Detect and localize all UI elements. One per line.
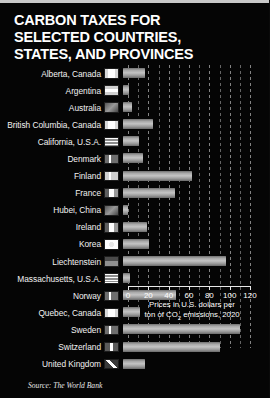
bar-row: Massachusetts, U.S.A.: [0, 270, 269, 287]
flag-korea-icon: [104, 239, 119, 250]
bar-track: [123, 185, 270, 202]
axis-tick: [209, 286, 210, 290]
category-label: Quebec, Canada: [0, 308, 104, 318]
axis-caption-line-2: ton of CO2 emissions, 2020: [128, 310, 256, 322]
bar: [123, 136, 139, 146]
bar-track: [123, 236, 270, 253]
bar-row: United Kingdom: [0, 356, 269, 373]
flag-quebec-canada-icon: [104, 308, 119, 319]
axis-caption-line-1: Prices in U.S. dollars per: [128, 300, 256, 310]
category-label: California, U.S.A.: [0, 137, 104, 147]
axis-caption-post: emissions, 2020: [181, 310, 240, 319]
axis-tick-label: 80: [205, 291, 214, 300]
category-label: Sweden: [0, 325, 104, 335]
bar-row: Australia: [0, 99, 269, 116]
bar: [123, 171, 192, 181]
flag-sweden-icon: [104, 325, 119, 336]
bar: [123, 222, 147, 232]
flag-alberta-canada-icon: [104, 68, 119, 79]
carbon-taxes-chart-figure: CARBON TAXES FOR SELECTED COUNTRIES, STA…: [0, 0, 269, 398]
bar: [123, 153, 143, 163]
bar-row: Hubei, China: [0, 202, 269, 219]
category-label: Ireland: [0, 222, 104, 232]
bar-rows: Alberta, CanadaArgentinaAustraliaBritish…: [0, 65, 269, 373]
flag-france-icon: [104, 188, 119, 199]
source-credit: Source: The World Bank: [28, 381, 102, 390]
title-line-1: CARBON TAXES FOR: [14, 12, 255, 29]
axis-tick: [250, 286, 251, 290]
category-label: United Kingdom: [0, 359, 104, 369]
bar-row: Switzerland: [0, 339, 269, 356]
bar-track: [123, 133, 270, 150]
axis-tick: [169, 286, 170, 290]
bar-track: [123, 321, 270, 338]
bar-track: [123, 99, 270, 116]
category-label: Korea: [0, 239, 104, 249]
category-label: France: [0, 188, 104, 198]
bar-row: British Columbia, Canada: [0, 116, 269, 133]
bar-track: [123, 82, 270, 99]
bar: [123, 68, 145, 78]
bar-row: Sweden: [0, 321, 269, 338]
flag-ireland-icon: [104, 222, 119, 233]
bar: [123, 324, 241, 334]
bar-row: France: [0, 185, 269, 202]
bar: [123, 85, 129, 95]
category-label: British Columbia, Canada: [0, 120, 104, 130]
bar-track: [123, 270, 270, 287]
flag-norway-icon: [104, 291, 119, 302]
bar: [123, 102, 132, 112]
flag-united-kingdom-icon: [104, 359, 119, 370]
category-label: Australia: [0, 103, 104, 113]
flag-british-columbia-canada-icon: [104, 120, 119, 131]
axis-tick: [189, 286, 190, 290]
flag-switzerland-icon: [104, 342, 119, 353]
title-line-3: STATES, AND PROVINCES: [14, 46, 255, 63]
bar-track: [123, 116, 270, 133]
axis-tick-label: 20: [144, 291, 153, 300]
bar-row: Finland: [0, 168, 269, 185]
bar: [123, 119, 154, 129]
page-title: CARBON TAXES FOR SELECTED COUNTRIES, STA…: [0, 3, 269, 65]
axis-caption: Prices in U.S. dollars per ton of CO2 em…: [128, 300, 256, 322]
bar: [123, 205, 128, 215]
axis-caption-pre: ton of CO: [144, 310, 177, 319]
axis-tick: [230, 286, 231, 290]
axis-tick-label: 120: [243, 291, 256, 300]
bar-track: [123, 219, 270, 236]
bar-row: Liechtenstein: [0, 253, 269, 270]
category-label: Switzerland: [0, 342, 104, 352]
flag-hubei-china-icon: [104, 205, 119, 216]
axis-tick: [128, 286, 129, 290]
axis-tick-label: 60: [185, 291, 194, 300]
flag-massachusetts-usa-icon: [104, 273, 119, 284]
bar-track: [123, 356, 270, 373]
bar-track: [123, 168, 270, 185]
bar: [123, 359, 145, 369]
axis-tick-label: 0: [126, 291, 130, 300]
flag-denmark-icon: [104, 154, 119, 165]
bar: [123, 239, 149, 249]
category-label: Alberta, Canada: [0, 69, 104, 79]
title-line-2: SELECTED COUNTRIES,: [14, 29, 255, 46]
bar-row: Argentina: [0, 82, 269, 99]
category-label: Liechtenstein: [0, 257, 104, 267]
category-label: Norway: [0, 291, 104, 301]
flag-argentina-icon: [104, 85, 119, 96]
bar: [123, 342, 221, 352]
category-label: Hubei, China: [0, 205, 104, 215]
flag-finland-icon: [104, 171, 119, 182]
bar: [123, 273, 130, 283]
bar-track: [123, 253, 270, 270]
bar: [123, 256, 227, 266]
category-label: Massachusetts, U.S.A.: [0, 274, 104, 284]
axis-tick-label: 100: [223, 291, 236, 300]
bar: [123, 188, 176, 198]
bar-row: Korea: [0, 236, 269, 253]
flag-australia-icon: [104, 102, 119, 113]
bar-track: [123, 339, 270, 356]
category-label: Denmark: [0, 154, 104, 164]
category-label: Argentina: [0, 86, 104, 96]
bar-row: Ireland: [0, 219, 269, 236]
bar-track: [123, 150, 270, 167]
